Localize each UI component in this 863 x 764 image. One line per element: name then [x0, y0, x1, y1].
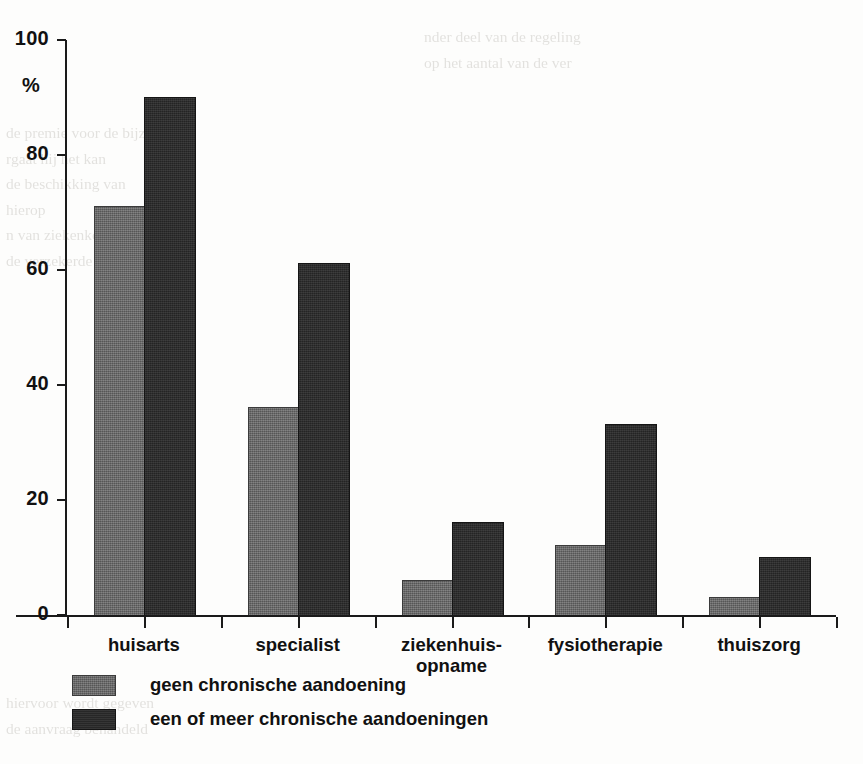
x-axis-category-label: huisarts	[67, 634, 221, 655]
x-axis-tick-mark	[452, 617, 454, 628]
x-axis-category-label: specialist	[221, 634, 375, 655]
x-axis-tick-mark	[759, 617, 761, 628]
x-axis-tick-mark	[221, 617, 223, 628]
y-axis-tick-mark	[57, 384, 66, 386]
bar-chart-figure: nder deel van de regeling op het aantal …	[0, 0, 863, 764]
x-axis-line	[16, 615, 836, 617]
legend-swatch-icon	[72, 675, 116, 696]
y-axis-tick-label: 60	[5, 257, 49, 280]
x-axis-tick-mark	[528, 617, 530, 628]
y-axis-tick-label: 0	[5, 602, 49, 625]
x-axis-category-label-line: specialist	[221, 634, 375, 655]
bar	[94, 206, 146, 615]
x-axis-tick-mark	[298, 617, 300, 628]
bar	[605, 424, 657, 615]
y-axis-tick-label: 80	[5, 142, 49, 165]
legend-swatch-icon	[72, 709, 116, 730]
y-axis-tick-mark	[57, 39, 66, 41]
y-axis-tick-mark	[57, 614, 66, 616]
x-axis-tick-mark	[144, 617, 146, 628]
x-axis-category-label-line: fysiotherapie	[528, 634, 682, 655]
bar	[709, 597, 761, 615]
y-axis-tick-mark	[57, 499, 66, 501]
x-axis-tick-mark	[682, 617, 684, 628]
chart-legend: geen chronische aandoening een of meer c…	[72, 668, 488, 736]
x-axis-category-label-line: ziekenhuis-	[375, 634, 529, 655]
y-axis-line	[65, 40, 67, 617]
x-axis-tick-mark	[605, 617, 607, 628]
legend-item-label: geen chronische aandoening	[150, 674, 406, 696]
y-axis-tick-label: 40	[5, 372, 49, 395]
x-axis-category-label: fysiotherapie	[528, 634, 682, 655]
y-axis-tick-mark	[57, 269, 66, 271]
x-axis-category-label: thuiszorg	[682, 634, 836, 655]
bar	[555, 545, 607, 615]
legend-item-geen-chronische-aandoening: geen chronische aandoening	[72, 668, 488, 702]
bar	[144, 97, 196, 616]
x-axis-category-label-line: huisarts	[67, 634, 221, 655]
x-axis-category-label-line: thuiszorg	[682, 634, 836, 655]
x-axis-tick-mark	[67, 617, 69, 628]
y-axis-tick-label: 100	[5, 27, 49, 50]
y-axis-tick-label: 20	[5, 487, 49, 510]
y-axis-tick-mark	[57, 154, 66, 156]
bar	[402, 580, 454, 616]
bar	[452, 522, 504, 615]
legend-item-een-of-meer-chronische-aandoeningen: een of meer chronische aandoeningen	[72, 702, 488, 736]
bar	[759, 557, 811, 616]
y-axis-unit-label: %	[22, 74, 40, 97]
plot-area: % 020406080100 huisartsspecialistziekenh…	[0, 0, 863, 764]
bar	[298, 263, 350, 615]
bar	[248, 407, 300, 615]
x-axis-tick-mark	[836, 617, 838, 628]
legend-item-label: een of meer chronische aandoeningen	[150, 708, 488, 730]
x-axis-tick-mark	[375, 617, 377, 628]
